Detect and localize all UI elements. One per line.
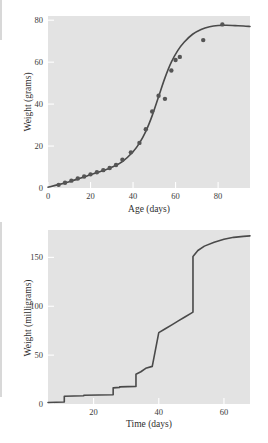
data-point-marker [69, 178, 73, 182]
data-point-marker [82, 174, 86, 178]
y-tick-labels: 020406080 [35, 15, 44, 193]
chart-molt-staircase: 050100150 204060 Weight (milligrams) Tim… [0, 222, 268, 443]
x-tick-labels: 204060 [89, 407, 228, 417]
x-axis-title: Time (days) [126, 419, 172, 430]
data-point-marker [173, 58, 177, 62]
plot-panel-background [48, 16, 250, 188]
y-tick-label: 50 [35, 350, 44, 360]
chart-growth-sigmoid: 020406080 020406080 Weight (grams) Age (… [0, 0, 268, 222]
x-tick-label: 40 [129, 191, 138, 201]
data-point-marker [120, 157, 124, 161]
y-tick-label: 0 [39, 183, 43, 193]
y-tick-label: 40 [35, 99, 44, 109]
y-tick-label: 150 [30, 252, 43, 262]
x-tick-label: 60 [171, 191, 180, 201]
y-tick-label: 20 [35, 141, 44, 151]
figure-molt-staircase: 050100150 204060 Weight (milligrams) Tim… [0, 222, 268, 443]
data-point-marker [95, 170, 99, 174]
data-point-marker [88, 172, 92, 176]
data-point-marker [114, 163, 118, 167]
page-left-rule-bottom [0, 222, 2, 397]
x-axis-title: Age (days) [128, 204, 170, 215]
plot-panel-background [48, 230, 250, 404]
data-point-marker [76, 176, 80, 180]
x-tick-label: 60 [220, 407, 229, 417]
data-point-marker [220, 22, 224, 26]
data-point-marker [178, 55, 182, 59]
data-point-marker [169, 68, 173, 72]
data-point-marker [150, 109, 154, 113]
x-tick-label: 20 [89, 407, 98, 417]
data-point-marker [144, 127, 148, 131]
data-point-marker [56, 183, 60, 187]
x-tick-label: 0 [46, 191, 50, 201]
y-tick-label: 80 [35, 15, 44, 25]
data-point-marker [129, 150, 133, 154]
y-tick-label: 60 [35, 57, 44, 67]
data-point-marker [201, 38, 205, 42]
y-axis-title: Weight (milligrams) [23, 279, 34, 356]
figure-growth-sigmoid: 020406080 020406080 Weight (grams) Age (… [0, 0, 268, 222]
x-tick-label: 80 [214, 191, 223, 201]
y-tick-label: 0 [39, 399, 43, 409]
x-tick-label: 20 [86, 191, 95, 201]
page-left-rule-top [0, 0, 2, 40]
data-point-marker [63, 181, 67, 185]
data-point-marker [163, 97, 167, 101]
x-tick-label: 40 [155, 407, 164, 417]
data-point-marker [137, 141, 141, 145]
y-axis-title: Weight (grams) [23, 72, 34, 131]
data-point-marker [156, 94, 160, 98]
x-tick-labels: 020406080 [46, 191, 222, 201]
data-point-marker [101, 168, 105, 172]
data-point-marker [107, 166, 111, 170]
